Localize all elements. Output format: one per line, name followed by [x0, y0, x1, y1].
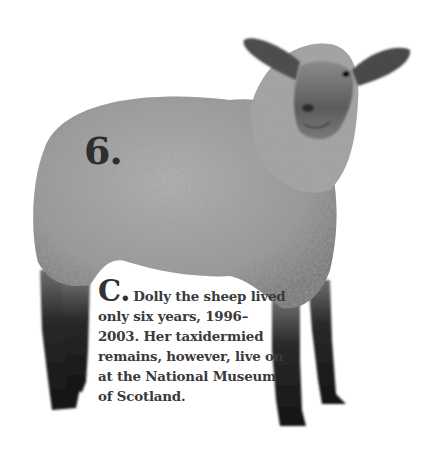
answer-text: Dolly the sheep lived only six years, 19…: [98, 288, 286, 404]
answer-caption: C.Dolly the sheep lived only six years, …: [98, 281, 288, 406]
item-number: 6.: [84, 132, 122, 170]
answer-letter: C.: [98, 274, 130, 308]
back-legs: [40, 270, 90, 410]
